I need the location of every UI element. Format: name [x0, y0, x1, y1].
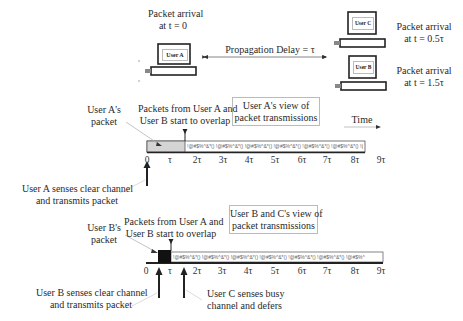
user-b-packet-label-line1: User B's: [82, 222, 126, 234]
user-a-view-line2: packet transmissions: [233, 112, 319, 124]
user-a-arrival-line2: at t = 0: [148, 20, 198, 32]
tick-b-0: 0: [144, 266, 149, 276]
tick-b-2: 2τ: [193, 266, 202, 276]
overlap-b-line2: User B start to overlap: [124, 228, 218, 240]
tick-a-7: 7τ: [323, 155, 332, 165]
tick-b-1: τ: [168, 266, 172, 276]
overlap-label-a: Packets from User A and User B start to …: [138, 103, 232, 127]
user-a-arrival-label: Packet arrival at t = 0: [148, 8, 198, 32]
overlap-a-line1: Packets from User A and: [138, 103, 232, 115]
user-bc-view-box: User B and C's view of packet transmissi…: [229, 205, 318, 234]
user-a-packet-label: User A's packet: [82, 104, 126, 128]
tick-b-4: 4τ: [244, 266, 253, 276]
tick-a-6: 6τ: [298, 155, 307, 165]
tick-a-2: 2τ: [193, 155, 202, 165]
user-a-packet-label-line2: packet: [82, 116, 126, 128]
user-a-view-line1: User A's view of: [233, 100, 319, 112]
user-b-screen-label: User B: [353, 61, 374, 74]
user-b-arrival-line1: Packet arrival: [393, 65, 455, 77]
tick-a-5: 5τ: [271, 155, 280, 165]
user-a-view-box: User A's view of packet transmissions: [232, 97, 320, 126]
user-bc-view-line2: packet transmissions: [230, 220, 317, 232]
user-a-event-line1: User A senses clear channel: [22, 183, 132, 195]
user-c-arrival-label: Packet arrival at t = 0.5τ: [393, 21, 455, 45]
tick-a-9: 9τ: [377, 155, 386, 165]
user-a-screen-label: User A: [162, 49, 188, 61]
overlap-a-line2: User B start to overlap: [138, 115, 232, 127]
tick-b-5: 5τ: [271, 266, 280, 276]
user-a-event-label: User A senses clear channel and transmit…: [22, 183, 132, 207]
user-c-screen-label: User C: [352, 17, 374, 30]
user-c-event-line1: User C senses busy: [207, 288, 281, 300]
user-b-event-line1: User B senses clear channel: [36, 287, 146, 299]
tick-a-4: 4τ: [245, 155, 254, 165]
user-c-arrival-line1: Packet arrival: [393, 21, 455, 33]
garbled-packet-a: !@#$%^&*() !@#$%^&*() !@#$%^&*() !@#$%^&…: [187, 142, 363, 151]
user-b-event-label: User B senses clear channel and transmit…: [36, 287, 146, 311]
user-b-packet-label-line2: packet: [82, 234, 126, 246]
tick-a-1: τ: [168, 155, 172, 165]
user-c-arrival-line2: at t = 0.5τ: [393, 33, 455, 45]
tick-a-3: 3τ: [219, 155, 228, 165]
user-a-event-line2: and transmits packet: [22, 195, 132, 207]
tick-b-8: 8τ: [351, 266, 360, 276]
tick-b-9: 9τ: [377, 266, 386, 276]
user-b-arrival-label: Packet arrival at t = 1.5τ: [393, 65, 455, 89]
user-c-event-line2: channel and defers: [207, 300, 281, 312]
propagation-delay-label: Propagation Delay = τ: [225, 44, 315, 56]
user-bc-view-line1: User B and C's view of: [230, 208, 317, 220]
user-a-packet: [147, 141, 185, 152]
overlap-label-b: Packets from User A and User B start to …: [124, 216, 218, 240]
user-b-arrival-line2: at t = 1.5τ: [393, 77, 455, 89]
tick-a-0: 0: [145, 155, 150, 165]
user-b-event-line2: and transmits packet: [36, 299, 146, 311]
tick-b-7: 7τ: [323, 266, 332, 276]
tick-b-3: 3τ: [218, 266, 227, 276]
tick-a-8: 8τ: [351, 155, 360, 165]
user-a-arrival-line1: Packet arrival: [148, 8, 198, 20]
time-axis-label: Time: [347, 114, 377, 126]
tick-b-6: 6τ: [298, 266, 307, 276]
overlap-b-line1: Packets from User A and: [124, 216, 218, 228]
user-c-event-label: User C senses busy channel and defers: [207, 288, 281, 312]
user-a-packet-label-line1: User A's: [82, 104, 126, 116]
garbled-packet-b: !@#$%^&*() !@#$%^&*() !@#$%^&*() !@#$%^&…: [173, 253, 381, 262]
user-b-packet: [158, 250, 171, 263]
user-b-packet-label: User B's packet: [82, 222, 126, 246]
